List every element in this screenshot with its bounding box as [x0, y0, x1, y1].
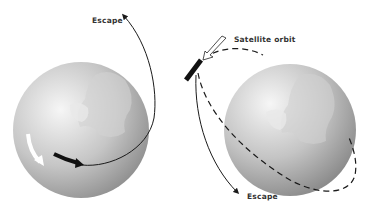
- diagram-canvas: [0, 0, 366, 214]
- satellite-orbit-label: Satellite orbit: [234, 35, 296, 44]
- diagram-stage: Escape Satellite orbit Escape: [0, 0, 366, 214]
- thrust-arrow-right-icon: [203, 36, 226, 60]
- right-globe: [224, 64, 356, 196]
- left-globe: [13, 62, 149, 198]
- escape-label-left: Escape: [92, 16, 123, 25]
- escape-label-right: Escape: [247, 192, 278, 201]
